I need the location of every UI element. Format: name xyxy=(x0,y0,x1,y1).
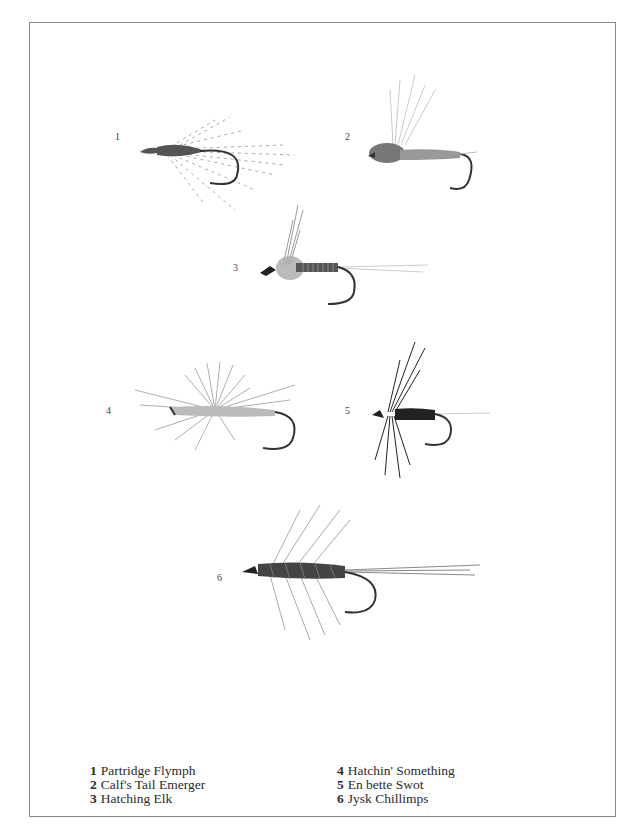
fly-1-number: 1 xyxy=(115,131,120,142)
caption-2: 2Calf's Tail Emerger xyxy=(90,778,205,792)
fly-5-number: 5 xyxy=(345,405,350,416)
fly-6-number: 6 xyxy=(217,572,222,583)
caption-1: 1Partridge Flymph xyxy=(90,764,205,778)
fly-5-en-bette-swot-illustration xyxy=(370,340,495,480)
caption-4: 4Hatchin' Something xyxy=(337,764,455,778)
caption-3: 3Hatching Elk xyxy=(90,792,205,806)
fly-4-number: 4 xyxy=(106,405,111,416)
fly-3-hatching-elk-illustration xyxy=(258,200,438,310)
fly-3-number: 3 xyxy=(233,262,238,273)
fly-6-jysk-chillimps-illustration xyxy=(240,500,485,645)
fly-2-number: 2 xyxy=(345,131,350,142)
fly-2-calfs-tail-emerger-illustration xyxy=(365,70,480,195)
captions-left: 1Partridge Flymph 2Calf's Tail Emerger 3… xyxy=(90,764,205,806)
caption-6: 6Jysk Chillimps xyxy=(337,792,455,806)
fly-4-hatchin-something-illustration xyxy=(135,360,300,455)
captions-right: 4Hatchin' Something 5En bette Swot 6Jysk… xyxy=(337,764,455,806)
caption-5: 5En bette Swot xyxy=(337,778,455,792)
